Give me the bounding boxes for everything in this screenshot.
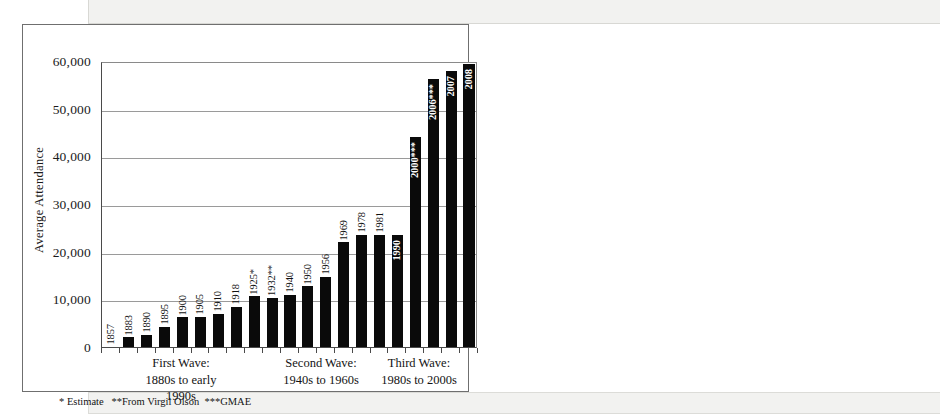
x-axis-tick [423, 348, 424, 353]
bar-value-label: 1895 [159, 304, 170, 325]
bar-series: 185718831890189519001905191019181925*193… [102, 63, 476, 347]
x-axis-tick [137, 348, 138, 353]
y-axis-tick-label: 10,000 [53, 292, 91, 308]
bar [320, 277, 331, 347]
bar-value-label: 2006*** [428, 84, 439, 120]
x-axis-tick [155, 348, 156, 353]
plot-area: 185718831890189519001905191019181925*193… [101, 62, 477, 348]
bar-value-label: 1910 [213, 291, 224, 312]
y-axis-tick-label: 30,000 [53, 197, 91, 213]
x-axis-tick [280, 348, 281, 353]
bar-slot: 1883 [123, 63, 134, 347]
bar-slot: 1932** [267, 63, 278, 347]
bar-slot: 1918 [231, 63, 242, 347]
bar-value-label: 2000*** [410, 142, 421, 178]
bar-slot: 1950 [302, 63, 313, 347]
bar-slot: 2006*** [428, 63, 439, 347]
bar-value-label: 2007 [446, 76, 457, 97]
bar-slot: 1978 [356, 63, 367, 347]
x-axis-tick [262, 348, 263, 353]
y-axis-tick-label: 40,000 [53, 149, 91, 165]
bar [446, 71, 457, 347]
annotation-title: First Wave: [101, 355, 261, 372]
x-axis-tick [101, 348, 102, 353]
page-top-edge-artifact [88, 0, 940, 24]
annotation-third-wave: Third Wave:1980s to 2000s [361, 355, 477, 388]
x-axis-tick [316, 348, 317, 353]
x-axis-tick [191, 348, 192, 353]
y-axis-tick-label: 50,000 [53, 102, 91, 118]
bar-value-label: 1990 [392, 240, 403, 261]
x-axis-tick [459, 348, 460, 353]
annotation-line: 1880s to early [101, 372, 261, 389]
x-axis-tick [173, 348, 174, 353]
bar [302, 286, 313, 347]
bar [338, 242, 349, 347]
bar [267, 298, 278, 347]
bar-value-label: 1905 [195, 294, 206, 315]
bar-value-label: 1950 [303, 264, 314, 285]
bar [249, 296, 260, 347]
x-axis-tick [334, 348, 335, 353]
bar-slot: 2000*** [410, 63, 421, 347]
chart-footnotes: * Estimate **From Virgil Olson ***GMAE [59, 396, 251, 407]
x-axis-tick [208, 348, 209, 353]
bar-value-label: 1978 [356, 212, 367, 233]
bar [463, 64, 474, 347]
y-axis-tick-label: 60,000 [53, 54, 91, 70]
x-axis-tick [370, 348, 371, 353]
x-axis-tick [352, 348, 353, 353]
x-axis-tick [244, 348, 245, 353]
bar-slot: 1990 [392, 63, 403, 347]
x-axis-tick [441, 348, 442, 353]
bar-value-label: 1883 [124, 315, 135, 336]
bar-slot: 1905 [195, 63, 206, 347]
bar-slot: 1981 [374, 63, 385, 347]
bar [356, 235, 367, 347]
annotation-title: Third Wave: [361, 355, 477, 372]
bar-value-label: 1932** [267, 265, 278, 296]
bar [284, 295, 295, 347]
bar [177, 317, 188, 347]
x-axis-tick [387, 348, 388, 353]
x-axis-tick [226, 348, 227, 353]
annotation-line: 1980s to 2000s [361, 372, 477, 389]
bar-slot: 1910 [213, 63, 224, 347]
x-axis-tick [477, 348, 478, 353]
bar-slot: 1940 [284, 63, 295, 347]
x-axis-tick [298, 348, 299, 353]
chart-sheet: Average Attendance 60,00050,00040,00030,… [22, 24, 469, 392]
y-axis-tick-labels: 60,00050,00040,00030,00020,00010,0000 [23, 49, 97, 359]
bar [213, 314, 224, 347]
bar-value-label: 1956 [321, 254, 332, 275]
bar [123, 337, 134, 347]
x-axis-ticks [101, 348, 477, 354]
bar-value-label: 1981 [374, 212, 385, 233]
bar-value-label: 1969 [338, 220, 349, 241]
y-axis-tick-label: 0 [84, 340, 91, 356]
bar-slot: 1900 [177, 63, 188, 347]
bar [374, 235, 385, 347]
bar-slot: 1895 [159, 63, 170, 347]
bar-slot: 1890 [141, 63, 152, 347]
bar-value-label: 1900 [177, 295, 188, 316]
bar-slot: 1956 [320, 63, 331, 347]
bar-slot: 2007 [446, 63, 457, 347]
bar-slot: 1857 [105, 63, 116, 347]
bar-slot: 1925* [249, 63, 260, 347]
bar [159, 327, 170, 347]
bar [231, 307, 242, 347]
bar-slot: 2008 [463, 63, 474, 347]
bar-value-label: 1918 [231, 284, 242, 305]
bar [141, 335, 152, 347]
bar-value-label: 1940 [285, 272, 296, 293]
y-axis-tick-label: 20,000 [53, 245, 91, 261]
x-axis-tick [119, 348, 120, 353]
bar-value-label: 1890 [142, 312, 153, 333]
bar-value-label: 1925* [249, 269, 260, 295]
bar-slot: 1969 [338, 63, 349, 347]
bar-value-label: 2008 [464, 69, 475, 90]
bar [195, 317, 206, 347]
x-axis-tick [405, 348, 406, 353]
bar-value-label: 1857 [106, 324, 117, 345]
